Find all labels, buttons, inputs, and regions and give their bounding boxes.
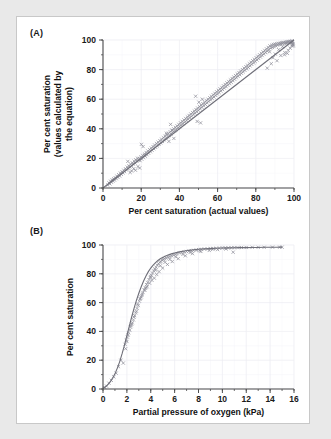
y-tick-label: 100 [82,35,96,45]
y-tick-label: 0 [91,384,96,394]
x-tick-label: 6 [172,394,177,404]
y-axis-title-line: Per cent saturation [65,278,75,356]
chart-panel-b: (B) 0246810121416020406080100Partial pre… [17,217,311,421]
y-axis-title-line: the equation) [64,87,74,141]
chart-panel-a: (A) 020406080100020406080100Per cent sat… [17,17,311,221]
x-axis-title: Per cent saturation (actual values) [129,206,269,216]
y-tick-label: 80 [87,269,97,279]
x-tick-label: 10 [218,394,228,404]
x-tick-label: 12 [242,394,252,404]
y-tick-label: 60 [87,94,97,104]
y-tick-label: 20 [87,153,97,163]
y-tick-label: 80 [87,65,97,75]
y-axis-title: Per cent saturation(values calculated by… [42,71,74,158]
x-tick-label: 60 [213,193,223,203]
panel-a-plot: 020406080100020406080100Per cent saturat… [17,17,311,221]
y-axis-title-line: Per cent saturation [42,75,52,153]
x-tick-label: 14 [265,394,275,404]
x-tick-label: 2 [125,394,130,404]
x-tick-label: 20 [136,193,146,203]
y-tick-label: 40 [87,326,97,336]
y-tick-label: 60 [87,298,97,308]
y-tick-label: 40 [87,124,97,134]
panel-a-label: (A) [30,28,43,38]
x-tick-label: 16 [289,394,299,404]
x-axis-title: Partial pressure of oxygen (kPa) [133,407,264,417]
x-tick-label: 0 [101,394,106,404]
figure-card: (A) 020406080100020406080100Per cent sat… [16,16,310,424]
x-tick-label: 100 [287,193,301,203]
y-axis-title-line: (values calculated by [53,71,63,158]
x-tick-label: 0 [101,193,106,203]
x-tick-label: 80 [251,193,261,203]
x-tick-label: 8 [196,394,201,404]
y-axis-title: Per cent saturation [65,278,75,356]
panel-b-label: (B) [30,226,43,236]
x-tick-label: 4 [148,394,153,404]
y-tick-label: 20 [87,355,97,365]
panel-b-plot: 0246810121416020406080100Partial pressur… [17,217,311,425]
y-tick-label: 100 [82,240,96,250]
y-tick-label: 0 [91,183,96,193]
x-tick-label: 40 [175,193,185,203]
